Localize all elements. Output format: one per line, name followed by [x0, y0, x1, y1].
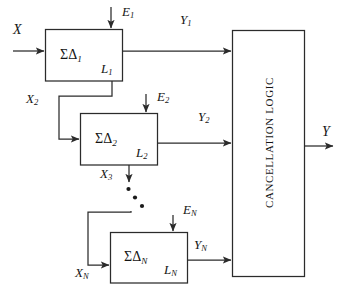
stage-1-feedback-label: X2: [26, 92, 38, 107]
stage-n-loop-label: LN: [164, 263, 177, 278]
stage-n-error-label: EN: [183, 203, 197, 218]
stage-1-modulator-label: ΣΔ1: [60, 48, 82, 64]
stage-2-loop-label: L2: [136, 146, 148, 161]
stage-n-output-label: YN: [194, 238, 207, 253]
ellipsis-dots: [126, 187, 144, 208]
cancellation-logic-label: CANCELLATION LOGIC: [263, 77, 275, 208]
stage-1-output-label: Y1: [180, 13, 192, 28]
stage-1-error-label: E1: [122, 5, 134, 20]
stage-n-modulator-label: ΣΔN: [124, 250, 147, 266]
stage-1-loop-label: L1: [101, 62, 113, 77]
stage-n-feedback-label: XN: [75, 266, 89, 281]
output-y-label: Y: [322, 125, 330, 139]
input-x-label: X: [13, 23, 22, 37]
block-diagram: X Y ΣΔ1 L1 E1 Y1 X2 ΣΔ2 L2 E2 Y2 X3 ΣΔN …: [0, 0, 346, 294]
stage-2-output-label: Y2: [198, 110, 210, 125]
stage-2-error-label: E2: [157, 90, 169, 105]
stage-2-feedback-label: X3: [100, 167, 112, 182]
stage-2-modulator-label: ΣΔ2: [95, 132, 117, 148]
diagram-canvas: [0, 0, 346, 294]
